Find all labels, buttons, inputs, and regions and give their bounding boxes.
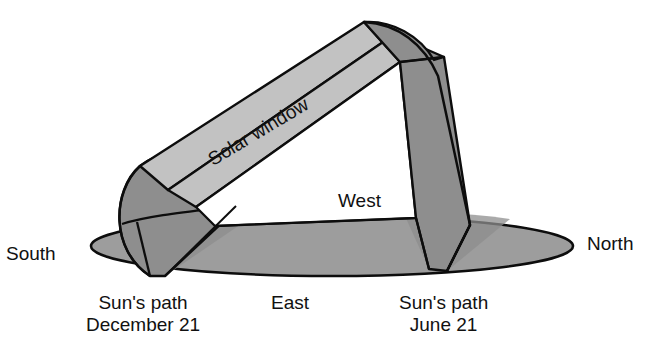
label-sun-path-december: Sun's path December 21	[86, 292, 200, 336]
sun-path-june-line1: Sun's path	[399, 292, 488, 313]
solar-window-diagram: South North West East Solar window Sun's…	[0, 0, 659, 358]
sun-path-december-line2: December 21	[86, 314, 200, 336]
sun-path-december-line1: Sun's path	[98, 292, 187, 313]
sun-path-june-line2: June 21	[399, 314, 488, 336]
label-south: South	[6, 243, 56, 265]
label-north: North	[587, 233, 633, 255]
label-east: East	[271, 292, 309, 314]
label-sun-path-june: Sun's path June 21	[399, 292, 488, 336]
label-west: West	[338, 190, 381, 212]
